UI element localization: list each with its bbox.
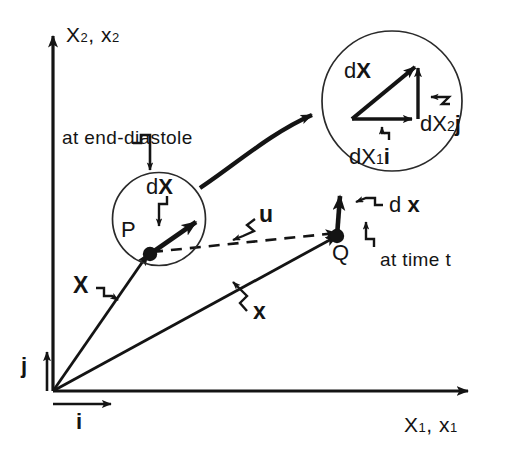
basis-vector-j-label: j: [21, 355, 27, 377]
magnified-inset-circle: [322, 31, 462, 171]
basis-vector-i-label: i: [76, 411, 82, 433]
displacement-vector-u-label: u: [259, 203, 273, 226]
inset-vector-dX-main: X: [356, 58, 371, 83]
inset-component-dX1-sub: 1: [376, 151, 384, 167]
material-point-P-dot: [143, 247, 157, 261]
position-vector-x-arrow: [53, 236, 337, 391]
horizontal-axis-label-second-sub: 1: [450, 420, 458, 435]
leader-inset-dX2: [431, 97, 450, 104]
horizontal-axis-label-second: x: [439, 413, 450, 436]
leader-dX-label: [159, 196, 167, 226]
position-vector-x-label: x: [253, 300, 266, 323]
leader-at-time-t: [366, 222, 374, 247]
inset-component-dX2-sub: 2: [447, 118, 455, 134]
vertical-axis-label-second: x: [101, 23, 112, 46]
magnifier-callout-arrow: [200, 115, 312, 188]
inset-vector-dX-label: dX: [344, 60, 371, 82]
inset-component-dX2-main: X: [432, 111, 447, 136]
line-element-dx-main: x: [407, 192, 419, 217]
inset-component-dX1-main: X: [361, 144, 376, 169]
horizontal-axis-label-separator: ,: [426, 413, 439, 436]
vertical-axis-label-main: X: [66, 23, 81, 46]
figure-canvas: X2, x2 X1, x1 j i at end-diastole at tim…: [0, 0, 512, 454]
leader-vector-X: [96, 288, 118, 300]
line-element-dX-label: dX: [146, 176, 173, 198]
inset-component-dX2-d: d: [420, 111, 432, 136]
vertical-axis-label-second-sub: 2: [112, 30, 120, 45]
leader-dx-label: [356, 198, 383, 205]
line-element-dx-d: d: [389, 192, 401, 217]
annotation-end-diastole: at end-diastole: [62, 128, 193, 147]
position-vector-X-label: X: [73, 274, 88, 297]
inset-component-dX1-label: dX1i: [349, 146, 390, 168]
point-P-label: P: [121, 219, 136, 241]
vertical-axis-label: X2, x2: [66, 24, 120, 45]
inset-component-dX1-d: d: [349, 144, 361, 169]
inset-vector-dX-d: d: [344, 58, 356, 83]
horizontal-axis-label: X1, x1: [404, 414, 458, 435]
annotation-at-time-t: at time t: [380, 250, 451, 269]
diagram-vector-graphics: [0, 0, 512, 454]
line-element-dX-d: d: [146, 174, 158, 199]
vertical-axis-label-separator: ,: [88, 23, 101, 46]
line-element-dX-main: X: [158, 174, 173, 199]
horizontal-axis-label-main: X: [404, 413, 419, 436]
inset-component-dX2-basis: j: [455, 111, 461, 136]
inset-component-dX2-label: dX2j: [420, 113, 461, 135]
line-element-dx-label: d x: [389, 194, 420, 216]
point-Q-label: Q: [332, 242, 349, 264]
position-vector-X-arrow: [53, 254, 148, 391]
leader-inset-dX1: [382, 127, 389, 140]
inset-component-dX1-basis: i: [384, 144, 390, 169]
leader-vector-u: [233, 219, 255, 240]
